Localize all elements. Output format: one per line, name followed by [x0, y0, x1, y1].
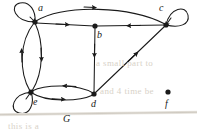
edge-c-to-b [96, 25, 165, 26]
vertex-label-b: b [97, 30, 102, 40]
graph-canvas [0, 0, 197, 134]
vertex-f [165, 89, 170, 94]
vertex-d [91, 91, 96, 96]
edge-a-to-c [36, 7, 165, 24]
edge-e-to-d [32, 93, 93, 100]
edge-c-c-self-loop [166, 9, 188, 26]
figure-caption: G [63, 114, 70, 124]
edge-e-e-self-loop [13, 92, 32, 113]
vertex-a [32, 19, 37, 24]
vertex-label-a: a [38, 3, 43, 13]
vertex-c [163, 22, 168, 27]
graph-figure: a small part to and 4 time be this is a … [0, 0, 197, 134]
edge-a-a-self-loop [14, 3, 35, 22]
vertex-b [92, 23, 97, 28]
edge-b-to-d [94, 27, 95, 93]
edge-a-to-e [32, 23, 42, 91]
edge-e-to-a [22, 23, 34, 91]
vertex-label-d: d [91, 99, 96, 109]
vertex-label-e: e [33, 97, 37, 107]
vertex-label-f: f [165, 99, 168, 109]
edge-a-to-b [36, 23, 94, 26]
vertex-label-c: c [159, 3, 163, 13]
vertex-e [28, 89, 33, 94]
edge-d-to-e [32, 86, 93, 93]
edge-d-to-c [95, 26, 165, 93]
